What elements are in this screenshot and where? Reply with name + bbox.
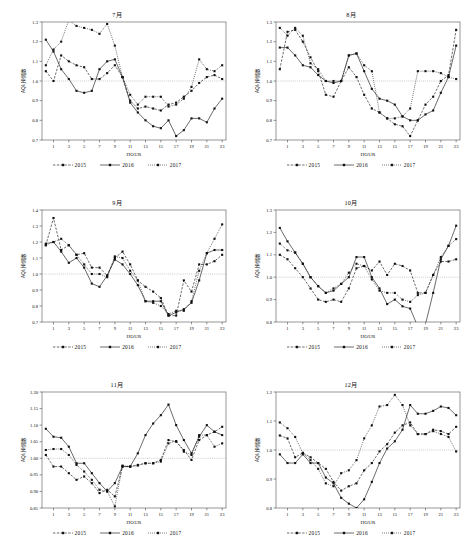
data-point-2016 xyxy=(52,436,54,438)
chart-panel-jul: 7月0.70.80.91.01.11.21.313579111315171921… xyxy=(0,0,234,188)
data-point-2016 xyxy=(286,462,288,464)
data-point-2015 xyxy=(340,490,342,492)
legend-item-2015[interactable]: 2015 xyxy=(287,529,321,536)
data-point-2015 xyxy=(83,252,85,254)
data-point-2015 xyxy=(98,267,100,269)
data-point-2017 xyxy=(129,466,131,468)
data-point-2016 xyxy=(167,119,169,121)
data-point-2016 xyxy=(363,256,365,258)
legend-item-2015[interactable]: 2015 xyxy=(287,343,321,350)
legend-item-2016[interactable]: 2016 xyxy=(334,529,368,536)
data-point-2016 xyxy=(152,125,154,127)
legend-swatch-2015 xyxy=(53,344,73,350)
data-point-2017 xyxy=(60,41,62,43)
y-tick-label: 1.4 xyxy=(32,208,38,213)
data-point-2017 xyxy=(160,305,162,307)
legend-item-2017[interactable]: 2017 xyxy=(382,161,416,168)
legend-item-2016[interactable]: 2016 xyxy=(100,343,134,350)
legend-item-2016[interactable]: 2016 xyxy=(334,161,368,168)
data-point-2017 xyxy=(409,424,411,426)
legend-item-2017[interactable]: 2017 xyxy=(382,529,416,536)
data-point-2015 xyxy=(424,104,426,106)
data-point-2017 xyxy=(309,459,311,461)
data-point-2016 xyxy=(221,98,223,100)
data-point-2016 xyxy=(60,251,62,253)
legend-item-2015[interactable]: 2015 xyxy=(287,161,321,168)
data-point-2015 xyxy=(221,426,223,428)
data-point-2015 xyxy=(401,265,403,267)
data-point-2017 xyxy=(83,263,85,265)
x-tick-label: 5 xyxy=(83,326,86,331)
x-tick-label: 15 xyxy=(393,144,398,149)
legend-swatch-2017 xyxy=(382,162,402,168)
data-point-2015 xyxy=(440,80,442,82)
data-point-2016 xyxy=(355,507,357,509)
legend-item-2017[interactable]: 2017 xyxy=(148,343,182,350)
x-tick-label: 13 xyxy=(377,326,382,331)
data-point-2017 xyxy=(190,300,192,302)
legend-item-2015[interactable]: 2015 xyxy=(53,343,87,350)
legend-item-2017[interactable]: 2017 xyxy=(148,529,182,536)
x-tick-label: 15 xyxy=(159,144,164,149)
data-point-2015 xyxy=(371,269,373,271)
x-tick-label: 1 xyxy=(286,512,289,517)
data-point-2017 xyxy=(137,465,139,467)
x-tick-label: 11 xyxy=(362,326,367,331)
legend-label-2017: 2017 xyxy=(170,530,182,536)
y-tick-label: 0.95 xyxy=(30,472,39,477)
legend-item-2015[interactable]: 2015 xyxy=(53,529,87,536)
y-tick-label: 1.2 xyxy=(266,39,272,44)
data-point-2017 xyxy=(447,436,449,438)
x-tick-label: 9 xyxy=(114,326,117,331)
data-point-2016 xyxy=(348,276,350,278)
legend-swatch-2016 xyxy=(100,344,120,350)
legend-item-2017[interactable]: 2017 xyxy=(148,161,182,168)
x-tick-label: 1 xyxy=(286,326,289,331)
legend-label-2017: 2017 xyxy=(404,344,416,350)
data-point-2015 xyxy=(75,64,77,66)
legend-item-2016[interactable]: 2016 xyxy=(334,343,368,350)
data-point-2015 xyxy=(302,41,304,43)
data-point-2016 xyxy=(83,462,85,464)
legend-nov: 201520162017 xyxy=(0,529,234,536)
x-tick-label: 17 xyxy=(174,326,179,331)
data-point-2017 xyxy=(160,96,162,98)
data-point-2016 xyxy=(206,424,208,426)
data-point-2017 xyxy=(183,451,185,453)
data-point-2015 xyxy=(121,251,123,253)
y-tick-label: 1.3 xyxy=(32,20,38,25)
data-point-2017 xyxy=(190,454,192,456)
data-point-2017 xyxy=(355,52,357,54)
x-tick-label: 15 xyxy=(393,326,398,331)
plot-jul: 0.70.80.91.01.11.21.31357911131517192123… xyxy=(0,0,234,188)
data-point-2015 xyxy=(98,78,100,80)
legend-item-2016[interactable]: 2016 xyxy=(100,529,134,536)
data-point-2016 xyxy=(286,47,288,49)
data-point-2017 xyxy=(152,302,154,304)
x-tick-label: 7 xyxy=(98,512,101,517)
data-point-2017 xyxy=(371,278,373,280)
series-line-2015 xyxy=(46,218,222,316)
legend-item-2015[interactable]: 2015 xyxy=(53,161,87,168)
data-point-2017 xyxy=(340,283,342,285)
data-point-2015 xyxy=(206,263,208,265)
y-tick-label: 0.8 xyxy=(32,118,38,123)
x-tick-label: 11 xyxy=(128,144,133,149)
legend-label-2016: 2016 xyxy=(356,162,368,168)
data-point-2015 xyxy=(52,80,54,82)
data-point-2016 xyxy=(294,462,296,464)
x-tick-label: 3 xyxy=(68,144,71,149)
legend-item-2016[interactable]: 2016 xyxy=(100,161,134,168)
y-tick-label: 0.8 xyxy=(32,304,38,309)
data-point-2016 xyxy=(386,303,388,305)
x-tick-label: 15 xyxy=(393,512,398,517)
x-axis-label: HOUR xyxy=(126,520,141,525)
x-tick-label: 9 xyxy=(114,512,117,517)
x-axis-label: HOUR xyxy=(126,334,141,339)
data-point-2016 xyxy=(447,407,449,409)
data-point-2017 xyxy=(175,310,177,312)
x-tick-label: 5 xyxy=(317,512,320,517)
data-point-2015 xyxy=(52,466,54,468)
data-point-2017 xyxy=(294,436,296,438)
legend-item-2017[interactable]: 2017 xyxy=(382,343,416,350)
